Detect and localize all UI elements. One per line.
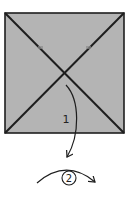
origami-diagram: 1 2 bbox=[0, 0, 133, 199]
step-2-label: 2 bbox=[66, 173, 72, 184]
crease-mark-right bbox=[86, 46, 91, 49]
step-1-label: 1 bbox=[63, 113, 70, 126]
crease-mark-left bbox=[38, 46, 43, 49]
